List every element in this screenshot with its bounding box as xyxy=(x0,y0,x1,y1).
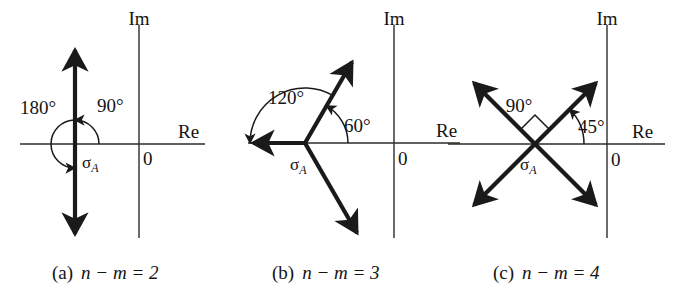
panel-b-asymptote-300 xyxy=(305,143,357,233)
panel-a-arc-90 xyxy=(75,120,99,144)
panel-c-asymptote-225 xyxy=(474,144,535,205)
panel-a-real-axis-label: Re xyxy=(178,121,199,142)
panel-a-angle-label-90: 90° xyxy=(97,95,124,116)
asymptote-diagram-svg: Re Im 0 180° 90° σA Re Im 0 xyxy=(0,0,677,299)
panel-c-angle-label-45: 45° xyxy=(578,116,605,137)
panel-a-caption-expression: n − m = 2 xyxy=(81,262,159,283)
panel-a-imag-axis-label: Im xyxy=(128,8,149,29)
panel-c-caption: (c)n − m = 4 xyxy=(493,262,600,284)
panel-b-centroid-label: σA xyxy=(290,155,307,177)
panel-b-caption-expression: n − m = 3 xyxy=(302,262,379,283)
panel-b-origin-label: 0 xyxy=(398,148,408,169)
panel-c-right-angle-marker xyxy=(521,115,550,130)
panel-b: Re Im 0 120° 60° σA xyxy=(248,8,460,238)
panel-a-centroid-sigma: σ xyxy=(82,153,91,172)
panel-a-angle-label-180: 180° xyxy=(20,97,56,118)
panel-a-origin-label: 0 xyxy=(143,148,153,169)
panel-a-caption: (a)n − m = 2 xyxy=(52,262,159,284)
panel-c-centroid-label: σA xyxy=(520,155,537,177)
panel-c-caption-expression: n − m = 4 xyxy=(522,262,600,283)
panel-c-real-axis-label: Re xyxy=(632,121,653,142)
panel-c: Re Im 0 90° 45° σA xyxy=(448,8,665,238)
panel-b-imag-axis-label: Im xyxy=(383,8,404,29)
panel-b-centroid-subscript: A xyxy=(298,163,307,177)
panel-a-caption-index: (a) xyxy=(52,262,73,284)
panel-a-centroid-subscript: A xyxy=(90,161,99,175)
panel-b-angle-label-120: 120° xyxy=(268,87,304,108)
panel-c-centroid-subscript: A xyxy=(528,163,537,177)
panel-b-centroid-sigma: σ xyxy=(290,155,299,174)
panel-c-imag-axis-label: Im xyxy=(596,8,617,29)
panel-b-real-axis-label: Re xyxy=(436,120,457,141)
panel-a-centroid-label: σA xyxy=(82,153,99,175)
panel-c-centroid-sigma: σ xyxy=(520,155,529,174)
panel-b-angle-label-60: 60° xyxy=(344,115,371,136)
panel-c-angle-label-90: 90° xyxy=(506,95,533,116)
panel-c-asymptote-315 xyxy=(535,144,596,205)
caption-row: (a)n − m = 2 (b)n − m = 3 (c)n − m = 4 xyxy=(52,262,600,284)
figure-root: Re Im 0 180° 90° σA Re Im 0 xyxy=(0,0,677,299)
panel-b-caption-index: (b) xyxy=(272,262,294,284)
panel-b-caption: (b)n − m = 3 xyxy=(272,262,380,284)
panel-c-origin-label: 0 xyxy=(611,149,621,170)
panel-c-caption-index: (c) xyxy=(493,262,514,284)
panel-a: Re Im 0 180° 90° σA xyxy=(20,8,205,238)
